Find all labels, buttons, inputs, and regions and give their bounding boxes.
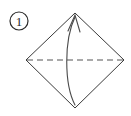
diagram-canvas: 1 [0,0,131,116]
step-number-label: 1 [16,14,23,29]
origami-step-diagram: 1 [0,0,131,116]
